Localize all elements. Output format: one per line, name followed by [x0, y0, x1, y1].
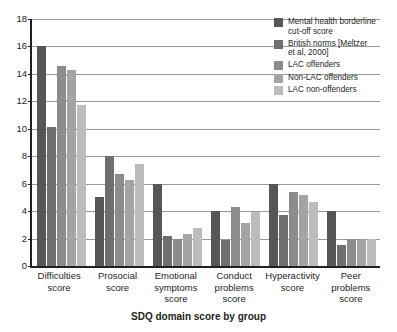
legend-swatch — [274, 86, 283, 95]
y-axis-tick-label: 6 — [22, 179, 27, 189]
bar — [105, 156, 114, 266]
bar — [279, 215, 288, 266]
chart-legend: Mental health borderlinecut-off scoreBri… — [274, 17, 394, 98]
bar — [231, 207, 240, 266]
legend-item: British norms [Meltzeret al, 2000] — [274, 39, 394, 58]
bar — [47, 127, 56, 266]
legend-item: Mental health borderlinecut-off score — [274, 17, 394, 36]
bar — [269, 184, 278, 266]
y-axis-tick-mark — [28, 266, 32, 267]
x-axis-label: Difficultiesscore — [30, 270, 88, 305]
legend-label: Mental health borderlinecut-off score — [288, 17, 376, 36]
bar — [347, 239, 356, 266]
y-axis-tick-label: 14 — [16, 69, 27, 79]
bar-group — [148, 19, 206, 266]
legend-label: LAC non-offenders — [288, 85, 357, 95]
bar — [367, 239, 376, 266]
legend-item: Non-LAC offenders — [274, 73, 394, 83]
bar — [193, 228, 202, 266]
bar — [57, 66, 66, 266]
bar — [173, 239, 182, 266]
bar-group — [206, 19, 264, 266]
legend-swatch — [274, 40, 283, 49]
y-axis-tick-label: 10 — [16, 124, 27, 134]
bar — [115, 174, 124, 266]
bar — [221, 240, 230, 266]
bar — [357, 240, 366, 266]
bar — [153, 184, 162, 266]
bar — [95, 197, 104, 266]
legend-item: LAC non-offenders — [274, 85, 394, 95]
legend-label: Non-LAC offenders — [288, 73, 358, 83]
legend-swatch — [274, 61, 283, 70]
bar — [77, 105, 86, 266]
bar — [37, 46, 46, 266]
y-axis-tick-label: 4 — [22, 206, 27, 216]
bar — [327, 211, 336, 266]
x-axis-label: Hyperactivityscore — [263, 270, 321, 305]
bar — [241, 223, 250, 266]
y-axis-tick-label: 0 — [22, 261, 27, 271]
bar — [125, 180, 134, 266]
bar — [67, 70, 76, 266]
x-axis-label: Peerproblemsscore — [322, 270, 380, 305]
x-axis-labels: DifficultiesscoreProsocialscoreEmotional… — [30, 270, 380, 305]
x-axis-label: Prosocialscore — [88, 270, 146, 305]
bar — [183, 234, 192, 266]
y-axis-tick-label: 18 — [16, 14, 27, 24]
bar-group — [90, 19, 148, 266]
bar — [289, 192, 298, 266]
sdq-grouped-bar-chart: 024681012141618 DifficultiesscoreProsoci… — [0, 0, 397, 332]
y-axis-tick-label: 2 — [22, 234, 27, 244]
legend-label: British norms [Meltzeret al, 2000] — [288, 39, 367, 58]
y-axis-tick-label: 12 — [16, 97, 27, 107]
chart-axis-title: SDQ domain score by group — [0, 311, 397, 322]
x-axis-label: Emotionalsymptomsscore — [147, 270, 205, 305]
bar — [211, 211, 220, 266]
bar — [337, 245, 346, 266]
bar — [299, 195, 308, 266]
legend-swatch — [274, 74, 283, 83]
bar — [251, 212, 260, 266]
bar — [163, 236, 172, 266]
y-axis-tick-label: 16 — [16, 42, 27, 52]
y-axis-tick-label: 8 — [22, 151, 27, 161]
legend-label: LAC offenders — [288, 60, 340, 70]
legend-swatch — [274, 18, 283, 27]
bar — [135, 164, 144, 266]
legend-item: LAC offenders — [274, 60, 394, 70]
bar-group — [32, 19, 90, 266]
x-axis-label: Conductproblemsscore — [205, 270, 263, 305]
bar — [309, 202, 318, 266]
